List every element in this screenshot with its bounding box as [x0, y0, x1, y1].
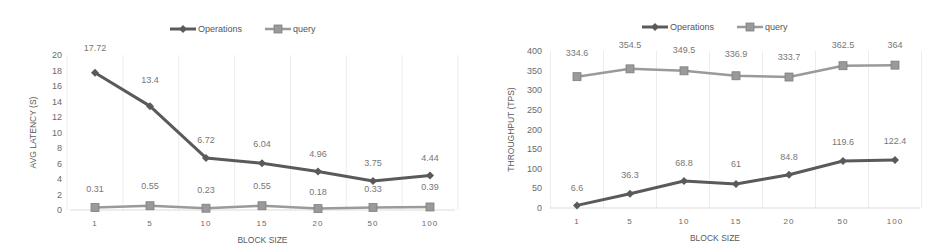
- y-tick-label: 50: [532, 183, 542, 193]
- data-label: 3.75: [364, 158, 382, 168]
- throughput-chart: 050100150200250300350400THROUGHPUT (TPS)…: [470, 0, 945, 251]
- legend-item-operations: Operations: [170, 24, 243, 34]
- y-axis-ticks: 02468101214161820: [52, 50, 62, 215]
- operations-marker-diamond: [314, 168, 322, 176]
- data-label: 84.8: [780, 152, 798, 162]
- legend-query-marker-square: [746, 23, 754, 31]
- legend-item-query: query: [737, 22, 788, 32]
- data-label: 6.72: [197, 135, 215, 145]
- operations-marker-diamond: [426, 172, 434, 180]
- data-label: 354.5: [619, 40, 642, 50]
- series-query: 334.6354.5349.5336.9333.7362.5364: [566, 40, 903, 81]
- x-axis-ticks: 1510152050100: [92, 219, 438, 228]
- y-tick-label: 10: [52, 128, 62, 138]
- legend-operations-marker-diamond: [179, 25, 187, 33]
- data-label: 333.7: [778, 52, 801, 62]
- y-tick-label: 8: [57, 143, 62, 153]
- query-marker-square: [839, 62, 847, 70]
- y-tick-label: 200: [527, 125, 542, 135]
- legend-item-operations: Operations: [642, 22, 715, 32]
- legend: Operationsquery: [642, 22, 788, 32]
- x-tick-label: 10: [679, 217, 690, 226]
- data-label: 0.23: [197, 185, 215, 195]
- data-label: 334.6: [566, 48, 589, 58]
- y-axis-title: THROUGHPUT (TPS): [506, 87, 516, 172]
- y-tick-label: 0: [537, 203, 542, 213]
- y-tick-label: 6: [57, 159, 62, 169]
- x-tick-label: 10: [201, 219, 212, 228]
- operations-marker-diamond: [785, 171, 793, 179]
- y-tick-label: 150: [527, 144, 542, 154]
- operations-marker-diamond: [626, 190, 634, 198]
- data-label: 68.8: [675, 158, 693, 168]
- x-tick-label: 20: [313, 219, 324, 228]
- data-label: 122.4: [884, 136, 907, 146]
- x-tick-label: 1: [92, 219, 97, 228]
- x-axis-title: BLOCK SIZE: [690, 233, 740, 243]
- x-tick-label: 1: [574, 217, 579, 226]
- x-tick-label: 5: [147, 219, 152, 228]
- operations-marker-diamond: [258, 159, 266, 167]
- legend-item-query: query: [265, 24, 316, 34]
- x-tick-label: 15: [731, 217, 742, 226]
- x-tick-label: 100: [887, 217, 903, 226]
- y-tick-label: 300: [527, 85, 542, 95]
- data-label: 0.55: [141, 181, 159, 191]
- y-tick-label: 250: [527, 105, 542, 115]
- operations-marker-diamond: [891, 156, 899, 164]
- x-tick-label: 50: [838, 217, 849, 226]
- latency-chart: 02468101214161820AVG LATENCY (S)15101520…: [0, 0, 470, 251]
- data-label: 362.5: [832, 40, 855, 50]
- query-marker-square: [891, 61, 899, 69]
- legend: Operationsquery: [170, 24, 316, 34]
- operations-marker-diamond: [680, 177, 688, 185]
- query-marker-square: [146, 202, 154, 210]
- y-tick-label: 100: [527, 164, 542, 174]
- query-marker-square: [680, 67, 688, 75]
- data-label: 0.39: [421, 182, 439, 192]
- data-label: 17.72: [84, 43, 107, 53]
- x-tick-label: 100: [422, 219, 438, 228]
- legend-label: Operations: [198, 24, 243, 34]
- legend-label: query: [765, 22, 788, 32]
- legend-label: query: [293, 24, 316, 34]
- data-label: 336.9: [725, 49, 748, 59]
- data-label: 6.6: [571, 183, 584, 193]
- data-label: 119.6: [832, 137, 854, 147]
- data-label: 61: [731, 159, 741, 169]
- query-marker-square: [426, 203, 434, 211]
- y-axis-ticks: 050100150200250300350400: [527, 46, 542, 213]
- x-tick-label: 15: [257, 219, 268, 228]
- x-axis-ticks: 1510152050100: [574, 217, 903, 226]
- y-tick-label: 400: [527, 46, 542, 56]
- series-operations: 17.7213.46.726.044.963.754.44: [84, 43, 439, 185]
- query-marker-square: [202, 204, 210, 212]
- x-tick-label: 5: [627, 217, 632, 226]
- legend-label: Operations: [670, 22, 715, 32]
- data-label: 36.3: [621, 170, 639, 180]
- query-marker-square: [732, 72, 740, 80]
- legend-operations-marker-diamond: [651, 23, 659, 31]
- data-label: 0.33: [364, 184, 382, 194]
- data-label: 4.44: [421, 153, 439, 163]
- figure: 02468101214161820AVG LATENCY (S)15101520…: [0, 0, 945, 251]
- y-tick-label: 12: [52, 112, 62, 122]
- query-marker-square: [573, 73, 581, 81]
- query-marker-square: [785, 73, 793, 81]
- x-axis-title: BLOCK SIZE: [237, 235, 287, 245]
- series-operations: 6.636.368.86184.8119.6122.4: [571, 136, 907, 209]
- series-query: 0.310.550.230.550.180.330.39: [86, 181, 439, 213]
- y-tick-label: 2: [57, 190, 62, 200]
- operations-marker-diamond: [732, 180, 740, 188]
- data-label: 0.18: [309, 187, 327, 197]
- data-label: 13.4: [141, 75, 159, 85]
- y-tick-label: 350: [527, 66, 542, 76]
- query-marker-square: [91, 204, 99, 212]
- legend-query-marker-square: [274, 25, 282, 33]
- y-tick-label: 4: [57, 174, 62, 184]
- query-marker-square: [258, 202, 266, 210]
- data-label: 349.5: [673, 45, 696, 55]
- query-marker-square: [314, 205, 322, 213]
- data-label: 4.96: [309, 149, 327, 159]
- query-marker-square: [626, 65, 634, 73]
